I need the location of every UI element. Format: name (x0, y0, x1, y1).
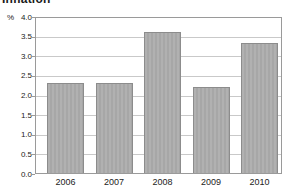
x-tick-label: 2008 (144, 177, 181, 188)
y-tick-label: 4.0 (8, 13, 32, 22)
y-tick-label: 3.5 (8, 32, 32, 41)
y-tick-mark (31, 17, 35, 18)
x-tick-label: 2006 (47, 177, 84, 188)
y-tick-mark (31, 135, 35, 136)
y-tick-mark (31, 56, 35, 57)
bars-container (36, 18, 281, 173)
y-tick-label: 1.0 (8, 130, 32, 139)
bar (193, 87, 230, 173)
y-tick-mark (31, 174, 35, 175)
y-tick-label: 3.0 (8, 52, 32, 61)
inflation-bar-chart: Inflation % 4.03.53.02.52.01.51.00.50.0 … (0, 0, 294, 193)
y-tick-label: 2.5 (8, 71, 32, 80)
y-tick-label: 0.5 (8, 150, 32, 159)
x-tick-label: 2010 (241, 177, 278, 188)
x-axis-tick-labels: 20062007200820092010 (36, 177, 281, 188)
bar (241, 43, 278, 173)
y-tick-mark (31, 37, 35, 38)
x-tick-label: 2009 (193, 177, 230, 188)
bar (96, 83, 133, 173)
y-tick-mark (31, 115, 35, 116)
bar (144, 32, 181, 173)
y-tick-label: 1.5 (8, 111, 32, 120)
chart-title: Inflation (2, 0, 50, 6)
y-tick-mark (31, 154, 35, 155)
plot-area (35, 17, 282, 174)
y-tick-label: 0.0 (8, 170, 32, 179)
x-tick-label: 2007 (96, 177, 133, 188)
y-tick-mark (31, 96, 35, 97)
bar (47, 83, 84, 173)
y-tick-label: 2.0 (8, 91, 32, 100)
y-tick-mark (31, 76, 35, 77)
